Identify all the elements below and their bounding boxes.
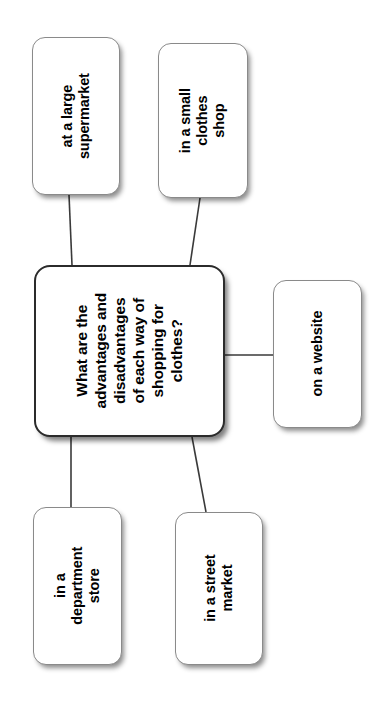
mindmap-node-clothes-shop-label: in a small clothes shop xyxy=(177,76,228,164)
mindmap-node-central-label: What are the advantages and disadvantage… xyxy=(73,267,186,435)
connector-central-supermarket xyxy=(69,195,72,265)
mindmap-node-website-label: on a website xyxy=(309,310,326,397)
mindmap-node-central[interactable]: What are the advantages and disadvantage… xyxy=(34,265,225,437)
mindmap-node-street-market-label: in a street market xyxy=(202,546,236,632)
mindmap-node-department-store-label: in a department store xyxy=(52,542,103,629)
mindmap-node-supermarket-label: at a large supermarket xyxy=(59,73,93,159)
connector-central-street-market xyxy=(192,437,206,512)
mindmap-node-clothes-shop[interactable]: in a small clothes shop xyxy=(158,43,248,198)
mindmap-node-department-store[interactable]: in a department store xyxy=(33,507,122,665)
mindmap-node-website[interactable]: on a website xyxy=(273,280,362,428)
mindmap-node-supermarket[interactable]: at a large supermarket xyxy=(32,37,120,195)
diagram-canvas: at a large supermarket in a small clothe… xyxy=(0,0,383,704)
mindmap-node-street-market[interactable]: in a street market xyxy=(175,512,263,665)
connector-central-clothes-shop xyxy=(190,198,200,265)
